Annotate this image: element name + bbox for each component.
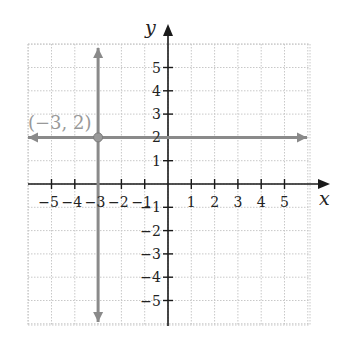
y-tick-label: −5: [140, 293, 161, 309]
point-marker: [94, 133, 103, 142]
y-axis-label: y: [144, 16, 156, 38]
x-tick-label: 3: [233, 194, 242, 210]
y-tick-label: −1: [140, 199, 161, 215]
y-tick-label: −2: [140, 223, 161, 239]
line-arrow-icon: [93, 48, 103, 58]
y-tick-label: 4: [152, 83, 161, 99]
point-label: (−3, 2): [28, 112, 91, 133]
x-tick-label: −4: [61, 194, 82, 210]
x-tick-label: 1: [187, 194, 196, 210]
x-tick-label: 5: [280, 194, 289, 210]
y-tick-label: 1: [152, 153, 161, 169]
y-tick-label: −4: [140, 269, 161, 285]
coordinate-plane: −5−4−3−2−112345−5−4−3−2−112345xy(−3, 2): [0, 0, 345, 344]
graph-svg: −5−4−3−2−112345−5−4−3−2−112345xy(−3, 2): [0, 0, 345, 344]
y-tick-label: 5: [152, 60, 161, 76]
y-tick-label: −3: [140, 246, 161, 262]
x-axis-label: x: [319, 187, 330, 209]
y-axis-arrow-icon: [163, 24, 173, 36]
line-arrow-icon: [28, 132, 38, 142]
y-tick-label: 2: [152, 129, 161, 145]
line-arrow-icon: [93, 312, 103, 322]
x-tick-label: −3: [85, 194, 106, 210]
x-tick-label: −5: [38, 194, 59, 210]
line-arrow-icon: [297, 132, 307, 142]
y-tick-label: 3: [152, 106, 161, 122]
x-tick-label: −2: [108, 194, 129, 210]
x-tick-label: 2: [210, 194, 219, 210]
x-tick-label: 4: [257, 194, 266, 210]
